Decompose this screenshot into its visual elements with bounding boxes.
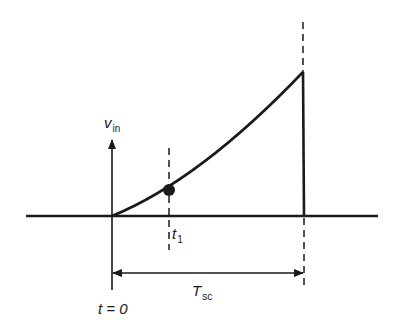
t1-label: t1 xyxy=(172,225,183,242)
ramp-curve xyxy=(112,72,303,216)
falling-edge xyxy=(303,72,304,216)
t1-point xyxy=(163,184,175,196)
tsc-label: Tsc xyxy=(192,282,212,299)
t-zero-label: t = 0 xyxy=(98,300,128,317)
y-axis-label: vin xyxy=(104,114,120,131)
